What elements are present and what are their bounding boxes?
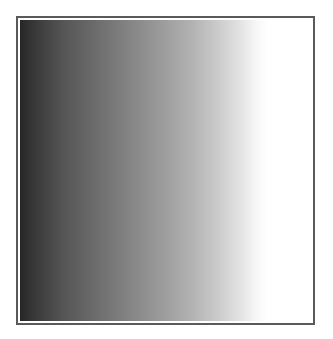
grayscale-gradient [20, 20, 311, 321]
canvas [0, 0, 333, 339]
gradient-frame [16, 16, 315, 325]
